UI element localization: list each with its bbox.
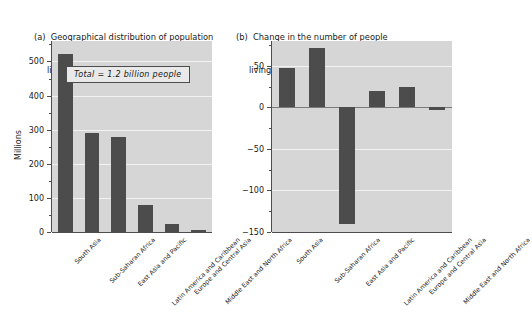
y-axis-tick [47, 198, 51, 199]
y-axis-tick-label: 0 [16, 228, 44, 237]
y-axis-tick [267, 66, 271, 67]
y-axis-tick-label: 500 [16, 57, 44, 66]
y-axis-minor-tick [269, 87, 272, 88]
gridline [272, 149, 452, 150]
bar [369, 91, 386, 108]
gridline [272, 66, 452, 67]
y-axis-tick [47, 130, 51, 131]
bar [111, 137, 126, 232]
y-axis-tick-label: 400 [16, 91, 44, 100]
y-axis-tick-label: 0 [236, 103, 264, 112]
gridline [52, 198, 212, 199]
y-axis-minor-tick [49, 181, 52, 182]
chart-a-y-axis-label: Millions [14, 130, 23, 160]
y-axis-minor-tick [49, 113, 52, 114]
y-axis-minor-tick [49, 44, 52, 45]
y-axis-tick-label: 100 [16, 193, 44, 202]
bar [309, 48, 326, 107]
y-axis-tick-label: 200 [16, 159, 44, 168]
gridline [52, 130, 212, 131]
y-axis-tick [267, 149, 271, 150]
y-axis-tick [47, 232, 51, 233]
x-axis-tick-label: South Asia [73, 236, 103, 266]
gridline [52, 164, 212, 165]
gridline [52, 96, 212, 97]
y-axis-tick-label: 50 [236, 61, 264, 70]
y-axis-tick [47, 164, 51, 165]
x-axis-spine [52, 232, 212, 233]
bar [429, 107, 446, 109]
bar [85, 133, 100, 232]
y-axis-minor-tick [269, 128, 272, 129]
chart-a-total-annotation: Total = 1.2 billion people [66, 66, 190, 83]
y-axis-spine [51, 41, 52, 232]
y-axis-minor-tick [49, 215, 52, 216]
y-axis-tick [267, 190, 271, 191]
y-axis-minor-tick [269, 45, 272, 46]
bar [279, 68, 296, 107]
y-axis-tick-label: −50 [236, 144, 264, 153]
gridline [272, 107, 452, 108]
y-axis-minor-tick [49, 79, 52, 80]
bar [138, 205, 153, 232]
y-axis-minor-tick [49, 147, 52, 148]
bar [165, 224, 180, 232]
x-axis-spine [272, 232, 452, 233]
y-axis-minor-tick [269, 211, 272, 212]
y-axis-tick [47, 96, 51, 97]
gridline [272, 190, 452, 191]
x-axis-tick-label: South Asia [295, 236, 325, 266]
chart-b-plot-area [272, 41, 452, 232]
y-axis-tick-label: −100 [236, 186, 264, 195]
bar [339, 107, 356, 223]
y-axis-tick-label: 300 [16, 125, 44, 134]
x-axis-tick-label: Latin America and Caribbean [402, 236, 473, 307]
chart-panel-a: (a) Geographical distribution of populat… [0, 0, 232, 320]
y-axis-tick-label: −150 [236, 228, 264, 237]
y-axis-tick [47, 61, 51, 62]
gridline [52, 61, 212, 62]
y-axis-minor-tick [269, 170, 272, 171]
chart-panel-b: (b) Change in the number of people livin… [232, 0, 466, 320]
y-axis-spine [271, 41, 272, 232]
bar [399, 87, 416, 108]
y-axis-tick [267, 107, 271, 108]
y-axis-tick [267, 232, 271, 233]
